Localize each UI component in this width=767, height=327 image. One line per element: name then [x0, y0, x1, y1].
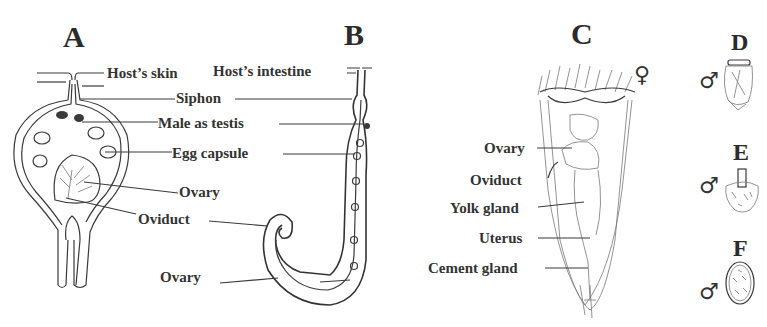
panel-e-drawing: [726, 169, 759, 212]
label-c-oviduct: Oviduct: [470, 173, 522, 188]
panel-c-drawing: [537, 64, 635, 318]
panel-d-drawing: [724, 60, 752, 110]
panel-a-drawing: [14, 73, 178, 288]
label-ovary-a: Ovary: [179, 185, 220, 200]
label-ovary-b: Ovary: [160, 270, 201, 285]
panel-letter-c: C: [571, 19, 593, 49]
label-c-ovary: Ovary: [484, 141, 525, 156]
diagram-drawings: [0, 0, 767, 327]
label-c-uterus: Uterus: [479, 231, 522, 246]
label-c-yolk-gland: Yolk gland: [450, 201, 519, 216]
male-symbol-d: ♂: [699, 70, 719, 92]
panel-b-drawing: [209, 68, 372, 305]
label-siphon: Siphon: [176, 91, 221, 106]
label-c-cement-gland: Cement gland: [428, 261, 518, 276]
panel-letter-a: A: [63, 22, 85, 52]
panel-letter-f: F: [733, 236, 748, 260]
label-host-intestine: Host’s intestine: [213, 64, 311, 79]
panel-letter-b: B: [344, 20, 364, 50]
panel-letter-e: E: [733, 140, 749, 164]
label-egg-capsule: Egg capsule: [172, 146, 248, 161]
label-male-as-testis: Male as testis: [158, 116, 244, 131]
figure: A B C D E F Host’s skin Host’s intestine…: [0, 0, 767, 327]
panel-f-drawing: [726, 262, 754, 304]
male-symbol-e: ♂: [699, 175, 719, 197]
male-symbol-f: ♂: [699, 281, 719, 303]
label-oviduct: Oviduct: [138, 212, 190, 227]
label-host-skin: Host’s skin: [107, 66, 178, 81]
female-symbol: ♀: [634, 64, 650, 86]
panel-letter-d: D: [731, 30, 748, 54]
